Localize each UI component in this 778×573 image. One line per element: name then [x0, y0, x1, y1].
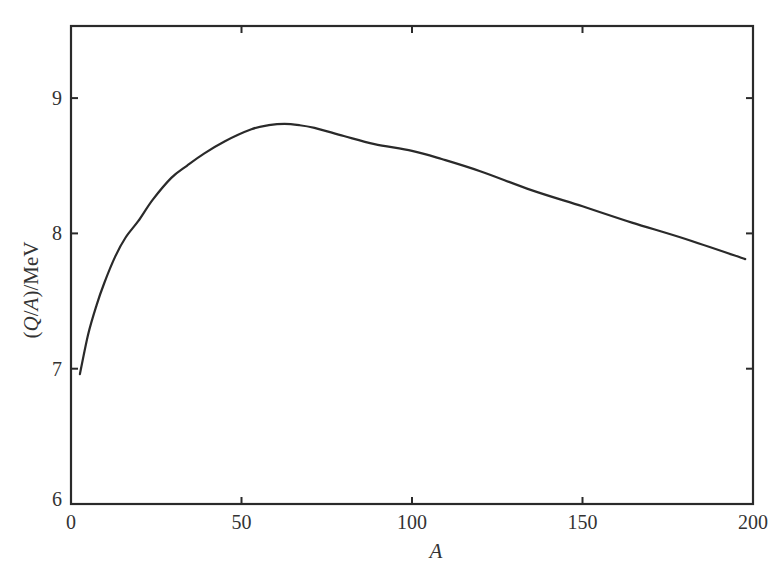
y-axis-tick-labels: 6789 — [52, 87, 62, 510]
x-tick-label: 200 — [738, 511, 768, 533]
data-curve — [80, 124, 745, 374]
y-tick-label: 7 — [52, 358, 62, 380]
x-tick-label: 100 — [397, 511, 427, 533]
x-axis-tick-labels: 050100150200 — [66, 511, 768, 533]
y-tick-label: 6 — [52, 488, 62, 510]
y-axis-label-a: A — [19, 297, 43, 312]
x-tick-label: 50 — [232, 511, 252, 533]
x-axis-label: A — [428, 539, 443, 563]
plot-frame — [71, 26, 753, 504]
y-axis-label-open: ( — [19, 331, 43, 338]
plot-border — [71, 26, 753, 504]
x-tick-label: 150 — [568, 511, 598, 533]
axis-ticks — [71, 26, 753, 504]
x-tick-label: 0 — [66, 511, 76, 533]
binding-energy-chart: 050100150200 6789 A (Q/A)/MeV — [0, 0, 778, 573]
y-tick-label: 9 — [52, 87, 62, 109]
y-axis-label-close: )/MeV — [19, 242, 43, 298]
y-axis-label: (Q/A)/MeV — [19, 242, 43, 339]
y-axis-label-q: Q — [19, 316, 43, 331]
y-tick-label: 8 — [52, 222, 62, 244]
